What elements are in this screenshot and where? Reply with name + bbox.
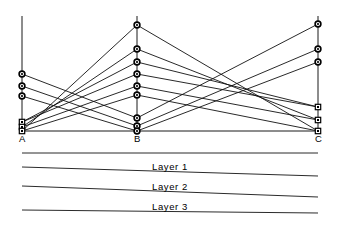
layer-label-1: Layer 1 [110,161,230,172]
axis-label-a: A [19,133,26,144]
node-marker-circle-center [136,94,138,96]
node-marker-circle-center [21,95,23,97]
node-marker-circle-center [21,73,23,75]
node-marker-square-center [317,130,319,132]
markers-group [19,21,321,134]
axis-labels-group: ABC [19,133,322,144]
node-marker-circle-center [136,61,138,63]
series-polyline [22,74,318,122]
series-polyline [22,86,318,127]
series-lines-group [22,24,318,131]
node-marker-circle-center [136,73,138,75]
axis-label-b: B [134,133,141,144]
node-marker-square-center [317,119,319,121]
node-marker-circle-center [136,85,138,87]
node-marker-square-center [317,106,319,108]
series-polyline [22,49,318,126]
series-polyline [22,49,318,127]
layer-label-2: Layer 2 [110,181,230,192]
node-marker-circle-center [136,48,138,50]
parallel-coordinates-plot: ABC [0,0,340,227]
node-marker-circle-center [136,24,138,26]
figure-canvas: ABC Layer 1Layer 2Layer 3 [0,0,340,227]
node-marker-circle-center [136,130,138,132]
node-marker-circle-center [136,125,138,127]
axis-label-c: C [315,133,322,144]
node-marker-circle-center [317,23,319,25]
node-marker-square-center [21,121,23,123]
node-marker-square-center [21,126,23,128]
axes-group [22,16,318,131]
layer-label-3: Layer 3 [110,201,230,212]
series-polyline [22,25,318,131]
node-marker-circle-center [136,117,138,119]
node-marker-square-center [21,130,23,132]
node-marker-circle-center [317,48,319,50]
node-marker-circle-center [317,61,319,63]
node-marker-circle-center [21,85,23,87]
